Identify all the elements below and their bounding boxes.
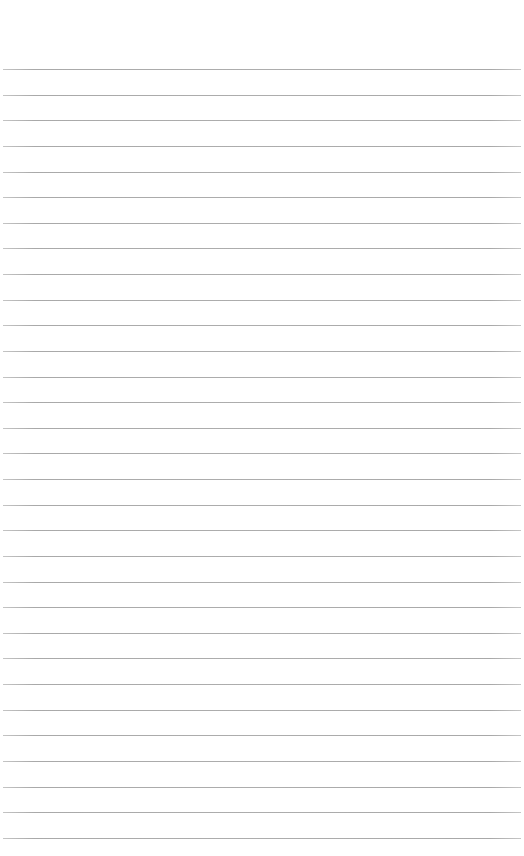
ruled-line [3, 505, 521, 506]
ruled-line [3, 274, 521, 275]
ruled-line [3, 453, 521, 454]
ruled-line [3, 325, 521, 326]
ruled-line [3, 710, 521, 711]
ruled-line [3, 556, 521, 557]
ruled-line [3, 377, 521, 378]
ruled-line [3, 248, 521, 249]
ruled-line [3, 146, 521, 147]
ruled-line [3, 582, 521, 583]
ruled-line [3, 633, 521, 634]
ruled-line [3, 530, 521, 531]
ruled-line [3, 479, 521, 480]
ruled-line [3, 300, 521, 301]
ruled-line [3, 402, 521, 403]
ruled-line [3, 69, 521, 70]
ruled-line [3, 761, 521, 762]
ruled-line [3, 684, 521, 685]
ruled-line [3, 120, 521, 121]
ruled-line [3, 735, 521, 736]
ruled-line [3, 223, 521, 224]
lined-paper-page [0, 0, 524, 856]
ruled-line [3, 658, 521, 659]
ruled-line [3, 172, 521, 173]
ruled-line [3, 351, 521, 352]
ruled-line [3, 787, 521, 788]
ruled-line [3, 812, 521, 813]
ruled-line [3, 95, 521, 96]
ruled-line [3, 607, 521, 608]
ruled-line [3, 428, 521, 429]
ruled-line [3, 197, 521, 198]
ruled-line [3, 838, 521, 839]
